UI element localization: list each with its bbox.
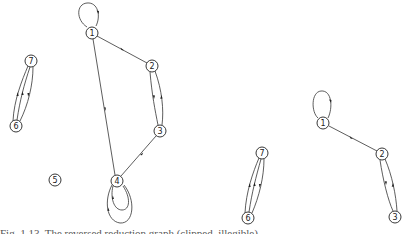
svg-text:7: 7 (259, 149, 264, 158)
arrow-head-icon (160, 95, 162, 99)
node-1: 1 (86, 27, 98, 39)
edge-2-3 (380, 160, 393, 211)
arrow-head-icon (22, 91, 24, 95)
edge-1-2 (329, 126, 377, 151)
node-3: 3 (389, 211, 401, 223)
edge-1-1-loop (313, 91, 331, 118)
svg-text:2: 2 (149, 62, 154, 71)
node-3: 3 (154, 125, 166, 137)
arrow-head-icon (254, 182, 256, 186)
node-6: 6 (10, 120, 22, 132)
svg-text:1: 1 (320, 119, 325, 128)
node-7: 7 (256, 147, 268, 159)
arrow-head-icon (249, 183, 251, 187)
svg-text:6: 6 (13, 122, 18, 131)
edge-3-2 (385, 159, 397, 211)
node-7: 7 (25, 55, 37, 67)
edge-6-7-a (13, 66, 28, 121)
edge-6-7-a (245, 158, 259, 213)
figure-caption: Fig. 1.13. The reversed reduction graph … (0, 228, 411, 234)
svg-text:1: 1 (89, 29, 94, 38)
node-5: 5 (49, 174, 61, 186)
svg-text:4: 4 (114, 177, 119, 186)
node-1: 1 (317, 117, 329, 129)
node-2: 2 (146, 60, 158, 72)
graph-right: 1 2 3 6 7 (242, 91, 401, 224)
caption-text: Fig. 1.13. The reversed reduction graph … (0, 228, 411, 234)
graph-left: 1 2 3 4 5 6 7 (10, 3, 166, 223)
svg-text:3: 3 (157, 127, 162, 136)
edge-4-3 (121, 136, 156, 176)
svg-text:3: 3 (392, 213, 397, 222)
node-6: 6 (242, 212, 254, 224)
svg-text:2: 2 (379, 150, 384, 159)
state-transition-diagram: 1 2 3 4 5 6 7 (0, 0, 411, 234)
arrow-head-icon (385, 181, 387, 185)
edge-4-4-loop-inner (112, 186, 129, 210)
edge-1-1-loop (79, 3, 99, 27)
svg-text:5: 5 (52, 176, 57, 185)
node-4: 4 (111, 175, 123, 187)
edge-1-4 (93, 39, 115, 175)
svg-text:7: 7 (28, 57, 33, 66)
node-2: 2 (376, 148, 388, 160)
svg-text:6: 6 (245, 214, 250, 223)
